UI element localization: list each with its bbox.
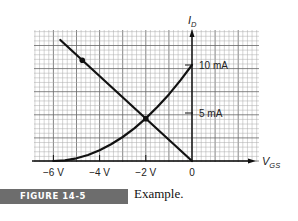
x-tick-label: −6 V [43,167,64,178]
y-tick-label: 10 mA [199,60,228,71]
x-tick-label: −2 V [135,167,156,178]
chart-grid [34,30,259,162]
x-tick-label: 0 [189,167,195,178]
q-point-marker [143,116,149,122]
y-axis-title: ID [188,14,197,29]
load-line-point-marker [79,57,85,63]
x-tick-label: −4 V [89,167,110,178]
chart-labels: −6 V−4 V−2 V05 mA10 mAIDVGS [43,14,280,178]
figure-label: FIGURE 14-5 [0,189,128,204]
load-line [60,40,192,161]
x-axis-title: VGS [262,155,280,170]
y-tick-label: 5 mA [199,108,223,119]
figure-caption: Example. [134,186,183,202]
